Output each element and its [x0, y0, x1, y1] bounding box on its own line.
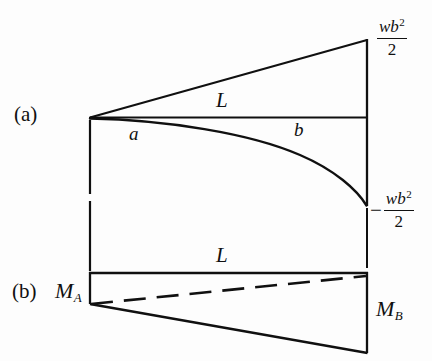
panel-b-left-moment-base: M — [55, 278, 73, 303]
bending-moment-figure: (a) L a b wb2 2 − wb2 2 (b) L MA MB — [0, 0, 432, 361]
panel-b-left-moment-subscript: A — [74, 290, 82, 305]
panel-a-span-label: L — [216, 90, 228, 111]
panel-b-span-label: L — [216, 245, 228, 266]
panel-b-lower-edge — [90, 304, 368, 353]
panel-a-bottom-value-bar — [384, 210, 414, 212]
panel-a-tag: (a) — [14, 104, 37, 125]
panel-a-top-value-numerator-base: wb — [379, 17, 399, 36]
panel-a-top-value-denominator: 2 — [377, 40, 407, 59]
panel-a-bottom-value-numerator: wb2 — [384, 189, 414, 209]
panel-a-bottom-value-sign: − — [370, 200, 382, 221]
panel-a-top-value-numerator: wb2 — [377, 17, 407, 37]
panel-a-segment-a-label: a — [129, 124, 139, 143]
panel-a-upper-edge — [90, 40, 367, 118]
panel-b-right-moment-label: MB — [376, 298, 403, 322]
panel-a-segment-b-label: b — [294, 120, 304, 139]
panel-b-dashed-chord — [91, 276, 366, 304]
panel-b-right-moment-base: M — [376, 296, 394, 321]
panel-b-linework — [89, 272, 368, 353]
panel-a-bottom-value-numerator-base: wb — [386, 189, 406, 208]
panel-a-top-value-exponent: 2 — [399, 16, 405, 28]
panel-b-right-moment-subscript: B — [395, 308, 403, 323]
panel-a-bottom-value-exponent: 2 — [406, 188, 412, 200]
panel-a-bottom-value: − wb2 2 — [370, 189, 414, 231]
panel-a-top-value-fraction: wb2 2 — [377, 17, 407, 59]
panel-b-tag: (b) — [12, 281, 37, 302]
panel-a-top-value: wb2 2 — [375, 17, 407, 59]
panel-a-bottom-value-fraction: wb2 2 — [384, 189, 414, 231]
figure-linework — [0, 0, 432, 361]
panel-a-top-value-bar — [377, 38, 407, 40]
panel-b-left-moment-label: MA — [55, 280, 82, 304]
panel-a-linework — [90, 39, 368, 271]
panel-a-bottom-value-denominator: 2 — [384, 212, 414, 231]
